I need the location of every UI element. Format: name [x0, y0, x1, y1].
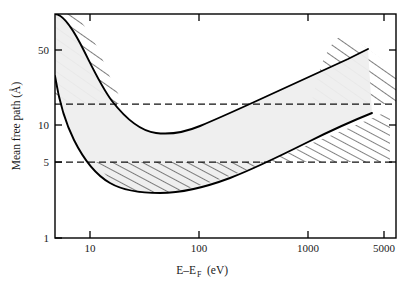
y-tick-label-1: 1 [44, 232, 50, 244]
y-tick-label-50: 50 [38, 44, 50, 56]
x-axis-title-unit: (eV) [207, 264, 228, 277]
chart-figure: 50 10 5 1 10 100 1000 5000 E–E F (eV) Me… [0, 0, 416, 283]
x-axis-title: E–E F (eV) [176, 264, 228, 279]
x-tick-label-1000: 1000 [297, 242, 320, 254]
x-axis-title-main: E–E [176, 264, 196, 276]
x-tick-label-10: 10 [85, 242, 97, 254]
x-tick-label-5000: 5000 [373, 242, 396, 254]
mean-free-path-universal-curve: 50 10 5 1 10 100 1000 5000 E–E F (eV) Me… [0, 0, 416, 283]
x-tick-label-100: 100 [191, 242, 208, 254]
y-tick-label-5: 5 [44, 156, 50, 168]
y-axis-title: Mean free path (Å) [9, 82, 23, 171]
x-axis-title-subscript: F [197, 270, 202, 279]
y-tick-label-10: 10 [38, 119, 50, 131]
